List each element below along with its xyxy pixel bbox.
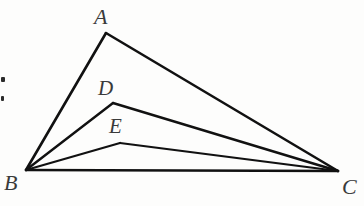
vertex-label-a: A <box>94 6 107 28</box>
segment-EC <box>120 143 338 171</box>
triangle-diagram-canvas <box>0 0 364 206</box>
segment-DC <box>113 103 338 171</box>
segment-AC <box>106 33 338 171</box>
vertex-label-c: C <box>342 176 357 198</box>
vertex-label-e: E <box>109 116 122 137</box>
geometry-figure: A B C D E <box>0 0 364 206</box>
segment-BD <box>26 103 113 170</box>
margin-speck-upper <box>1 77 5 82</box>
segment-BC <box>26 170 338 171</box>
vertex-label-d: D <box>98 78 113 99</box>
segments-group <box>26 33 338 171</box>
vertex-label-b: B <box>4 172 17 194</box>
margin-speck-lower <box>1 96 4 101</box>
